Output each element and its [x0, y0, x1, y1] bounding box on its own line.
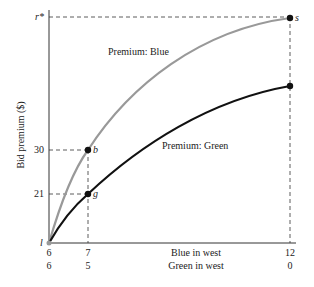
point-green-end: [287, 83, 293, 89]
y-tick-rstar: r*: [35, 11, 44, 22]
x-label-blue: Blue in west: [171, 247, 221, 258]
point-g: [85, 191, 91, 197]
x-label-green: Green in west: [168, 260, 224, 271]
green-premium-curve: [49, 86, 290, 243]
point-origin: [47, 241, 52, 246]
x-tick-blue-7: 7: [86, 247, 91, 258]
point-b: [85, 147, 91, 153]
y-tick-21: 21: [34, 188, 44, 199]
label-b: b: [93, 144, 98, 155]
series-label-blue: Premium: Blue: [108, 46, 169, 57]
guide-lines: [49, 17, 290, 243]
origin-label: l: [40, 237, 43, 248]
bid-premium-chart: b g s l Premium: Blue Premium: Green 30 …: [0, 0, 314, 287]
label-s: s: [295, 12, 299, 23]
y-tick-30: 30: [34, 144, 44, 155]
blue-premium-curve: [49, 18, 290, 243]
label-g: g: [93, 188, 98, 199]
x-tick-green-5: 5: [86, 260, 91, 271]
x-tick-green-0: 0: [288, 260, 293, 271]
x-tick-green-6: 6: [47, 260, 52, 271]
x-tick-blue-12: 12: [285, 247, 295, 258]
y-axis-label: Bid premium ($): [15, 101, 27, 168]
point-s: [287, 15, 293, 21]
x-tick-blue-6: 6: [47, 247, 52, 258]
series-label-green: Premium: Green: [162, 140, 228, 151]
